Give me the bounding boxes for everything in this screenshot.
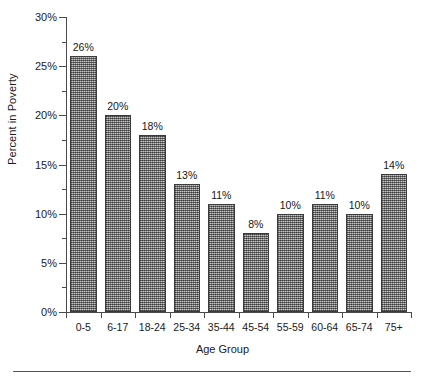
bar-value-label: 20% — [101, 101, 136, 112]
y-tick-major — [59, 115, 66, 116]
bar-value-label: 11% — [204, 190, 239, 201]
bar[interactable] — [139, 135, 166, 312]
bar-value-label: 14% — [377, 160, 412, 171]
bar[interactable] — [174, 184, 201, 312]
x-tick-label: 35-44 — [208, 321, 235, 333]
bar[interactable] — [381, 174, 408, 312]
x-tick-label: 55-59 — [277, 321, 304, 333]
y-tick-major — [59, 312, 66, 313]
y-tick-major — [59, 17, 66, 18]
y-axis-title: Percent in Poverty — [7, 73, 18, 165]
footer-rule — [13, 371, 411, 372]
y-tick-major — [59, 214, 66, 215]
bar-value-label: 8% — [239, 219, 274, 230]
y-tick-major — [59, 263, 66, 264]
bar-slot: 10% — [342, 17, 377, 312]
x-tick — [377, 312, 378, 318]
y-tick-label: 0% — [41, 307, 57, 318]
x-tick-label: 25-34 — [173, 321, 200, 333]
bar-slot: 8% — [239, 17, 274, 312]
y-tick-major — [59, 165, 66, 166]
x-tick-label: 18-24 — [139, 321, 166, 333]
bar-slot: 11% — [308, 17, 343, 312]
x-tick-label: 0-5 — [76, 321, 91, 333]
bar-value-label: 13% — [170, 170, 205, 181]
x-tick — [273, 312, 274, 318]
bar-value-label: 10% — [273, 200, 308, 211]
x-tick — [66, 312, 67, 318]
bar-slot: 10% — [273, 17, 308, 312]
bar[interactable] — [346, 214, 373, 312]
bar[interactable] — [243, 233, 270, 312]
bar-value-label: 11% — [308, 190, 343, 201]
bar-slot: 20% — [101, 17, 136, 312]
bar-slot: 18% — [135, 17, 170, 312]
y-tick-label: 30% — [35, 12, 57, 23]
x-axis-title-text: Age Group — [196, 343, 249, 355]
x-tick-label: 45-54 — [242, 321, 269, 333]
bar-slot: 11% — [204, 17, 239, 312]
x-tick — [308, 312, 309, 318]
x-tick-label: 60-64 — [311, 321, 338, 333]
x-tick-label: 6-17 — [107, 321, 128, 333]
x-tick-label: 65-74 — [346, 321, 373, 333]
bar-value-label: 10% — [342, 200, 377, 211]
x-tick — [135, 312, 136, 318]
x-tick — [204, 312, 205, 318]
poverty-by-age-bar-chart: Percent in Poverty 0%5%10%15%20%25%30% 2… — [0, 0, 425, 385]
y-tick-label: 25% — [35, 61, 57, 72]
x-tick — [239, 312, 240, 318]
y-tick-label: 15% — [35, 159, 57, 170]
y-tick-major — [59, 66, 66, 67]
bar-slot: 13% — [170, 17, 205, 312]
y-tick-label: 20% — [35, 110, 57, 121]
y-tick-label: 10% — [35, 208, 57, 219]
x-axis-title: Age Group — [0, 343, 425, 355]
plot-area: 0%5%10%15%20%25%30% 26%20%18%13%11%8%10%… — [66, 17, 411, 312]
bar[interactable] — [70, 56, 97, 312]
bar-slot: 26% — [66, 17, 101, 312]
y-tick-label: 5% — [41, 257, 57, 268]
bar[interactable] — [105, 115, 132, 312]
bar-value-label: 18% — [135, 121, 170, 132]
bar[interactable] — [208, 204, 235, 312]
x-tick-label: 75+ — [385, 321, 403, 333]
bar-series: 26%20%18%13%11%8%10%11%10%14% — [66, 17, 411, 312]
x-tick — [170, 312, 171, 318]
x-tick — [101, 312, 102, 318]
x-tick — [411, 312, 412, 318]
x-tick — [342, 312, 343, 318]
bar-value-label: 26% — [66, 42, 101, 53]
bar[interactable] — [277, 214, 304, 312]
bar-slot: 14% — [377, 17, 412, 312]
bar[interactable] — [312, 204, 339, 312]
